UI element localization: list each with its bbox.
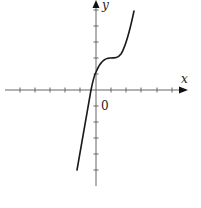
y-axis-arrow-icon bbox=[93, 0, 100, 8]
origin-label: 0 bbox=[101, 99, 109, 113]
x-axis-label: x bbox=[181, 72, 188, 86]
y-axis-label: y bbox=[101, 0, 109, 12]
x-axis-arrow-icon bbox=[179, 87, 188, 94]
function-graph: x y 0 bbox=[0, 0, 201, 208]
y-axis bbox=[93, 0, 100, 186]
